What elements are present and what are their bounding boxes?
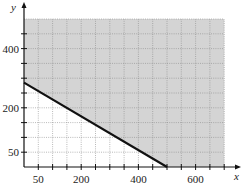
x-tick-label: 50 — [33, 173, 45, 185]
x-axis-arrow-icon — [235, 165, 241, 170]
y-tick-label: 200 — [3, 102, 20, 114]
y-tick-label: 50 — [8, 146, 20, 158]
x-tick-label: 200 — [73, 173, 90, 185]
x-tick-label: 400 — [130, 173, 147, 185]
y-tick-label: 400 — [3, 43, 20, 55]
y-axis-arrow-icon — [22, 2, 27, 8]
inequality-graph: 5020040060050200400 y x — [0, 0, 241, 188]
x-axis-label: x — [233, 170, 239, 182]
y-axis-label: y — [10, 1, 16, 13]
x-tick-label: 600 — [187, 173, 204, 185]
